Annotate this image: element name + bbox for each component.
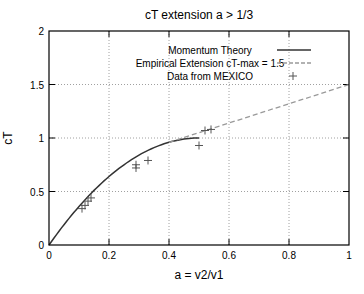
plot-area — [49, 85, 349, 246]
legend-label: Data from MEXICO — [167, 71, 253, 82]
x-tick-label: 0.4 — [162, 250, 176, 261]
legend-label: Momentum Theory — [168, 45, 252, 56]
data-point-marker — [195, 141, 203, 149]
legend: Momentum TheoryEmpirical Extension cT-ma… — [136, 45, 311, 82]
x-tick-label: 0 — [46, 250, 52, 261]
data-point-marker — [207, 125, 215, 133]
y-axis-label: cT — [1, 131, 15, 145]
y-tick-label: 1.5 — [30, 80, 44, 91]
y-tick-label: 0 — [38, 240, 44, 251]
legend-label: Empirical Extension cT-max = 1.5 — [136, 58, 285, 69]
chart-svg: cT extension a > 1/3 00.20.40.60.8100.51… — [0, 0, 364, 294]
x-tick-label: 0.6 — [222, 250, 236, 261]
x-tick-label: 0.8 — [282, 250, 296, 261]
y-tick-label: 0.5 — [30, 187, 44, 198]
x-tick-label: 0.2 — [102, 250, 116, 261]
data-point-marker — [201, 127, 209, 135]
y-tick-label: 1 — [38, 133, 44, 144]
chart-container: cT extension a > 1/3 00.20.40.60.8100.51… — [0, 0, 364, 294]
y-tick-label: 2 — [38, 26, 44, 37]
x-axis-label: a = v2/v1 — [174, 268, 223, 282]
chart-title: cT extension a > 1/3 — [145, 8, 254, 22]
empirical-extension-line — [169, 85, 349, 143]
data-point-marker — [144, 156, 152, 164]
x-tick-label: 1 — [346, 250, 352, 261]
